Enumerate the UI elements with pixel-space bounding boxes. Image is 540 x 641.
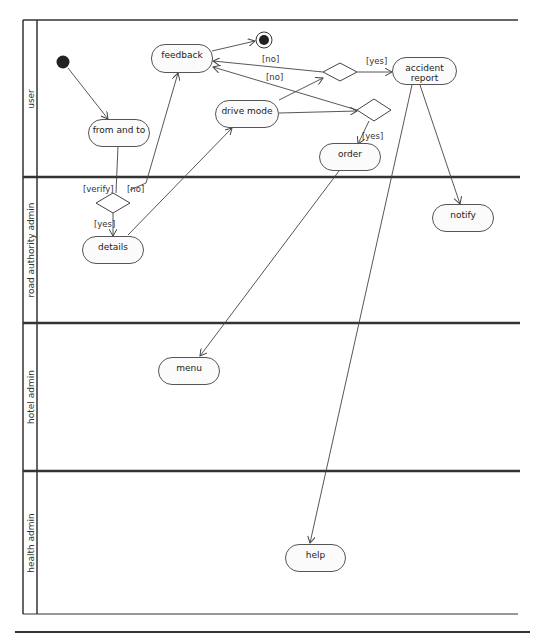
activity-drive-mode[interactable]: drive mode xyxy=(215,100,279,128)
lane-label-health-admin: health admin xyxy=(24,471,38,614)
guard-no-mid: [no] xyxy=(266,72,283,82)
activity-diagram: user road authority admin hotel admin he… xyxy=(0,0,540,641)
activity-from-and-to[interactable]: from and to xyxy=(88,119,150,147)
lane-label-user: user xyxy=(24,20,38,177)
decision-verify-icon xyxy=(96,193,130,213)
guard-verify: [verify] xyxy=(83,184,114,194)
lane-label-road-authority-admin: road authority admin xyxy=(24,177,38,323)
guard-yes-accident: [yes] xyxy=(366,56,387,66)
decision-accident-icon xyxy=(323,63,357,81)
decision-order-icon xyxy=(357,99,391,121)
lane-label-hotel-admin: hotel admin xyxy=(24,323,38,471)
activity-order[interactable]: order xyxy=(319,143,381,171)
activity-accident-report[interactable]: accident report xyxy=(392,57,457,85)
lane-health-text: health admin xyxy=(26,513,36,573)
activity-help[interactable]: help xyxy=(285,544,346,572)
guard-no-top: [no] xyxy=(262,54,279,64)
lane-road-authority-text: road authority admin xyxy=(26,202,36,297)
initial-node-icon xyxy=(57,56,70,69)
guard-yes-details: [yes] xyxy=(94,219,115,229)
guard-yes-order: [yes] xyxy=(362,131,383,141)
activity-details[interactable]: details xyxy=(82,236,144,264)
activity-menu[interactable]: menu xyxy=(158,357,220,385)
diagram-canvas xyxy=(0,0,540,641)
lane-hotel-text: hotel admin xyxy=(26,370,36,424)
activity-notify[interactable]: notify xyxy=(432,204,494,232)
lane-user-text: user xyxy=(26,89,36,109)
guard-no-verify: [no] xyxy=(127,184,144,194)
activity-feedback[interactable]: feedback xyxy=(151,44,213,73)
